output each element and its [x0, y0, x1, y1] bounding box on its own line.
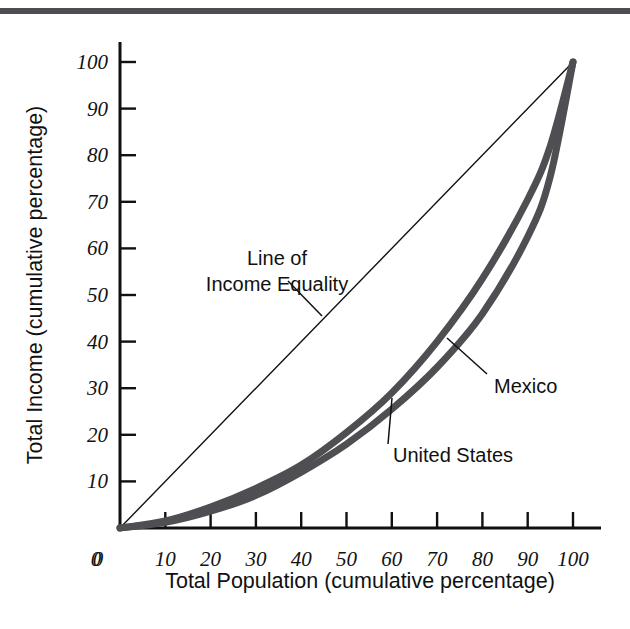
x-axis-ticks	[165, 512, 573, 528]
y-axis-title: Total Income (cumulative percentage)	[23, 106, 47, 465]
y-tick-label: 50	[87, 283, 109, 307]
x-tick-label: 80	[472, 547, 494, 571]
y-axis-ticks	[120, 62, 136, 481]
annotation-line: United States	[393, 444, 513, 466]
axes-group	[120, 42, 601, 528]
x-tick-label: 70	[427, 547, 449, 571]
x-axis-title: Total Population (cumulative percentage)	[165, 569, 555, 593]
x-tick-label: 20	[200, 547, 222, 571]
annotation-line: Mexico	[494, 375, 557, 397]
x-tick-label: 90	[517, 547, 539, 571]
y-tick-label: 100	[77, 50, 109, 74]
annotation-leader-mexico	[447, 338, 487, 374]
x-tick-label: 10	[155, 547, 177, 571]
annotation-label-mexico: Mexico	[494, 375, 557, 397]
annotation-line: Income Equality	[206, 273, 348, 295]
x-tick-label: 0	[93, 547, 104, 571]
y-tick-label: 40	[87, 330, 109, 354]
x-tick-label: 40	[291, 547, 313, 571]
x-tick-label: 60	[381, 547, 403, 571]
x-tick-label: 100	[557, 547, 589, 571]
figure-page: 0102030405060708090100 01020304050607080…	[0, 0, 630, 629]
x-tick-label: 30	[244, 547, 267, 571]
y-tick-label: 10	[87, 469, 109, 493]
y-tick-label: 30	[86, 376, 109, 400]
y-tick-label: 80	[87, 143, 109, 167]
y-tick-label: 60	[87, 236, 109, 260]
annotation-label-line-of-income-equality: Line ofIncome Equality	[206, 247, 348, 295]
x-tick-label: 50	[336, 547, 358, 571]
annotation-leader-united-states	[388, 398, 392, 444]
y-axis-tick-labels: 0102030405060708090100	[77, 50, 109, 571]
lorenz-curve-chart: 0102030405060708090100 01020304050607080…	[0, 0, 630, 629]
y-tick-label: 20	[87, 423, 109, 447]
annotation-line: Line of	[247, 247, 307, 269]
annotation-label-united-states: United States	[393, 444, 513, 466]
x-axis-tick-labels: 0102030405060708090100	[93, 547, 590, 571]
y-tick-label: 90	[87, 97, 109, 121]
y-tick-label: 70	[87, 190, 109, 214]
